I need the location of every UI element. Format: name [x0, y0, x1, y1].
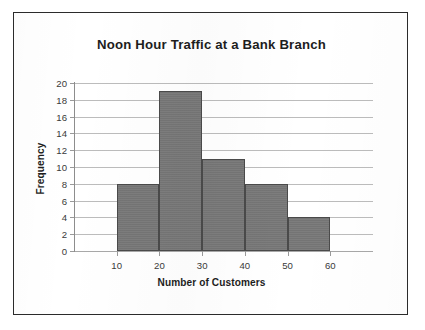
x-axis-tick-mark [245, 251, 246, 256]
y-axis-tick-label: 12 [56, 145, 71, 156]
y-axis-tick-label: 14 [56, 128, 71, 139]
x-axis-title: Number of Customers [14, 277, 409, 288]
y-axis-tick-label: 10 [56, 162, 71, 173]
x-axis-tick-mark [117, 251, 118, 256]
plot-area: 02468101214161820 102030405060 [74, 83, 373, 251]
x-axis-tick-mark [330, 251, 331, 256]
x-axis-tick-label: 30 [197, 260, 208, 271]
y-axis-title-label: Frequency [36, 142, 47, 194]
gridline [74, 100, 373, 101]
y-axis-tick-label: 6 [62, 195, 71, 206]
y-axis-tick-label: 0 [62, 246, 71, 257]
y-axis-tick-label: 20 [56, 78, 71, 89]
x-axis-tick-mark [288, 251, 289, 256]
gridline [74, 83, 373, 84]
y-axis-tick-label: 2 [62, 229, 71, 240]
y-axis-line [74, 82, 75, 252]
x-axis-tick-label: 10 [111, 260, 122, 271]
x-axis-tick-label: 20 [154, 260, 165, 271]
gridline [74, 117, 373, 118]
y-axis-tick-label: 8 [62, 178, 71, 189]
histogram-bar [288, 217, 331, 251]
x-axis-tick-label: 60 [325, 260, 336, 271]
gridline [74, 150, 373, 151]
x-axis-tick-label: 50 [282, 260, 293, 271]
histogram-bar [202, 159, 245, 251]
gridline [74, 133, 373, 134]
x-axis-tick-mark [202, 251, 203, 256]
y-axis-tick-label: 16 [56, 111, 71, 122]
x-axis-tick-label: 40 [240, 260, 251, 271]
histogram-bar [159, 91, 202, 251]
histogram-bar [117, 184, 160, 251]
gridline [74, 251, 373, 252]
y-axis-tick-label: 18 [56, 94, 71, 105]
y-axis-title: Frequency [34, 113, 48, 223]
histogram-bar [245, 184, 288, 251]
chart-title: Noon Hour Traffic at a Bank Branch [14, 37, 409, 52]
y-axis-tick-label: 4 [62, 212, 71, 223]
x-axis-tick-mark [159, 251, 160, 256]
figure-frame: Noon Hour Traffic at a Bank Branch Frequ… [13, 12, 408, 315]
